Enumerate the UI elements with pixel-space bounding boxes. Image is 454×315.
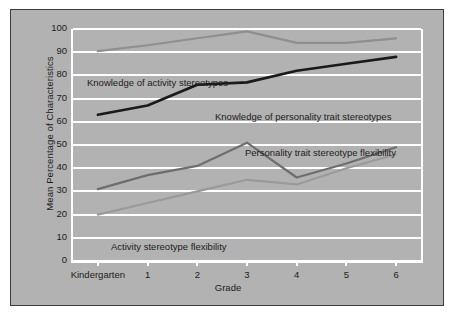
series-annotation-label: Activity stereotype flexibility xyxy=(111,241,227,252)
x-axis-title: Grade xyxy=(11,282,445,293)
y-axis-title: Mean Percentage of Characteristics xyxy=(44,34,55,234)
y-tick-label: 100 xyxy=(27,22,67,33)
series-annotation-label: Personality trait stereotype flexibility xyxy=(245,147,396,158)
x-tick-mark xyxy=(147,261,149,266)
series-lines xyxy=(73,29,421,261)
x-tick-label: 6 xyxy=(351,269,441,280)
y-tick-label: 60 xyxy=(27,115,67,126)
y-tick-label: 10 xyxy=(27,231,67,242)
y-tick-label: 70 xyxy=(27,92,67,103)
series-annotation-label: Knowledge of personality trait stereotyp… xyxy=(215,111,391,122)
x-tick-mark xyxy=(345,261,347,266)
y-tick-label: 80 xyxy=(27,68,67,79)
x-tick-mark xyxy=(246,261,248,266)
series-annotation-label: Knowledge of activity stereotypes xyxy=(87,77,228,88)
plot-area: 0102030405060708090100 Kindergarten12345… xyxy=(73,29,421,261)
y-tick-label: 30 xyxy=(27,184,67,195)
y-tick-label: 0 xyxy=(27,254,67,265)
y-tick-label: 20 xyxy=(27,208,67,219)
chart-figure: Mean Percentage of Characteristics Grade… xyxy=(10,9,444,306)
series-line xyxy=(98,154,396,214)
y-tick-label: 40 xyxy=(27,161,67,172)
series-line xyxy=(98,31,396,51)
x-tick-mark xyxy=(196,261,198,266)
x-tick-mark xyxy=(97,261,99,266)
y-tick-label: 50 xyxy=(27,138,67,149)
plot-right-border xyxy=(421,29,423,263)
x-tick-mark xyxy=(296,261,298,266)
y-tick-label: 90 xyxy=(27,45,67,56)
x-tick-mark xyxy=(395,261,397,266)
